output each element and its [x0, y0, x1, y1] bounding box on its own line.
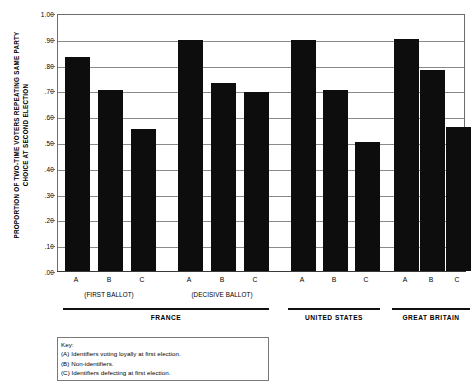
category-label: B: [220, 276, 225, 283]
y-axis-tick-mark: [50, 272, 55, 273]
bar: [244, 92, 269, 271]
y-axis-tick-mark: [50, 66, 55, 67]
y-axis-tick-mark: [50, 91, 55, 92]
key-line-a: (A) Identifiers voting loyally at first …: [61, 349, 265, 358]
group-label: GREAT BRITAIN: [402, 314, 459, 321]
category-label: A: [74, 276, 79, 283]
bar: [178, 40, 203, 271]
y-axis-tick-mark: [50, 169, 55, 170]
category-label: C: [252, 276, 257, 283]
y-axis-tick-mark: [50, 40, 55, 41]
key-line-c: (C) Identifiers defecting at first elect…: [61, 368, 265, 377]
y-axis-tick-mark: [50, 14, 55, 15]
y-axis-tick-mark: [50, 246, 55, 247]
y-axis-tick-labels: 1.00.90.80.70.60.50.40.30.20.10.00: [30, 0, 54, 272]
subgroup-label: (FIRST BALLOT): [84, 291, 134, 298]
bar: [211, 83, 236, 271]
group-rule: [63, 308, 269, 310]
y-axis-tick-mark: [50, 117, 55, 118]
category-label: C: [363, 276, 368, 283]
category-label: A: [403, 276, 408, 283]
plot-area: [57, 14, 465, 272]
key-line-b: (B) Non-identifiers.: [61, 359, 265, 368]
group-label: UNITED STATES: [305, 314, 363, 321]
bar: [131, 129, 156, 271]
subgroup-label: (DECISIVE BALLOT): [191, 291, 252, 298]
category-label: A: [300, 276, 305, 283]
bar: [291, 40, 316, 271]
category-label: B: [429, 276, 434, 283]
group-rule: [392, 308, 470, 310]
bar: [394, 39, 419, 271]
bar: [98, 90, 123, 271]
y-axis-tick-mark: [50, 220, 55, 221]
category-label: C: [139, 276, 144, 283]
category-label: C: [454, 276, 459, 283]
group-label: FRANCE: [151, 314, 181, 321]
x-axis-baseline: [57, 271, 466, 272]
category-label: B: [107, 276, 112, 283]
bar: [323, 90, 348, 271]
key-box: Key: (A) Identifiers voting loyally at f…: [57, 337, 269, 381]
key-title: Key:: [61, 340, 265, 349]
bar: [355, 142, 380, 271]
y-axis-tick-mark: [50, 195, 55, 196]
group-rule: [288, 308, 380, 310]
category-label: B: [332, 276, 337, 283]
bar: [65, 57, 90, 271]
bar-chart-figure: PROPORTION OF TWO-TIME VOTERS REPEATING …: [0, 0, 476, 388]
bar: [446, 127, 471, 271]
bar: [420, 70, 445, 271]
category-label: A: [187, 276, 192, 283]
y-axis-tick-mark: [50, 143, 55, 144]
